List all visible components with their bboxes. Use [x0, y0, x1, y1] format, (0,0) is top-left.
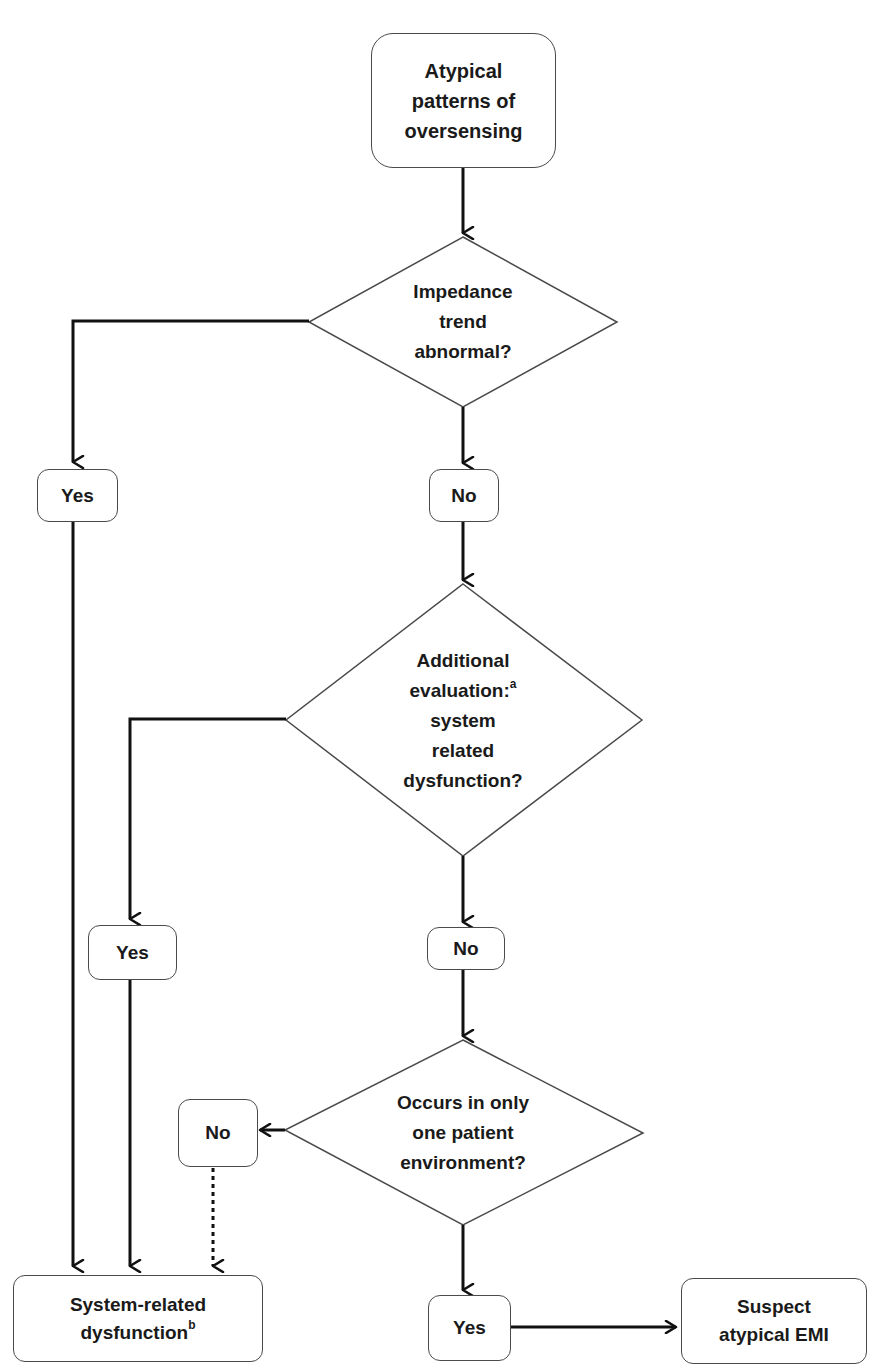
- decision3-line-1: Occurs in only: [397, 1088, 529, 1118]
- decision2-line-4: related: [432, 736, 494, 766]
- answer-label: No: [453, 935, 478, 963]
- decision-environment-label: Occurs in only one patient environment?: [368, 1087, 558, 1179]
- decision2-line-1: Additional: [417, 646, 510, 676]
- answer-label: Yes: [116, 939, 149, 967]
- decision3-line-3: environment?: [400, 1148, 526, 1178]
- outcome-emi-line-1: Suspect: [737, 1293, 811, 1321]
- answer-label: Yes: [61, 482, 94, 510]
- start-line-3: oversensing: [405, 116, 523, 146]
- footnote-b: b: [188, 1318, 195, 1332]
- decision-additional-evaluation-label: Additional evaluation:a system related d…: [378, 643, 548, 799]
- answer-impedance-no: No: [429, 469, 499, 522]
- answer-additional-yes: Yes: [88, 925, 177, 980]
- decision1-line-3: abnormal?: [414, 337, 511, 367]
- start-node-atypical-oversensing: Atypical patterns of oversensing: [371, 33, 556, 168]
- decision-impedance-label: Impedance trend abnormal?: [383, 276, 543, 368]
- outcome-suspect-atypical-emi: Suspect atypical EMI: [681, 1278, 867, 1364]
- decision2-line-3: system: [430, 706, 496, 736]
- decision2-line-2-text: evaluation:: [410, 680, 510, 701]
- outcome-system-line-2-text: dysfunction: [80, 1322, 188, 1343]
- outcome-system-line-2: dysfunctionb: [80, 1319, 195, 1347]
- decision2-line-5: dysfunction?: [403, 766, 522, 796]
- answer-impedance-yes: Yes: [37, 469, 118, 522]
- answer-label: No: [205, 1119, 230, 1147]
- edge-additional-yes: [130, 719, 286, 919]
- footnote-a: a: [510, 677, 517, 691]
- decision2-line-2: evaluation:a: [410, 676, 517, 706]
- decision1-line-2: trend: [439, 307, 487, 337]
- decision1-line-1: Impedance: [413, 277, 512, 307]
- answer-label: Yes: [453, 1314, 486, 1342]
- answer-environment-yes: Yes: [428, 1295, 511, 1361]
- start-line-1: Atypical: [425, 56, 503, 86]
- edge-impedance-yes: [73, 321, 309, 462]
- decision3-line-2: one patient: [412, 1118, 513, 1148]
- start-line-2: patterns of: [412, 86, 515, 116]
- answer-label: No: [451, 482, 476, 510]
- answer-environment-no: No: [178, 1099, 258, 1167]
- outcome-system-line-1: System-related: [70, 1291, 206, 1319]
- outcome-system-related-dysfunction: System-related dysfunctionb: [13, 1275, 263, 1362]
- flowchart-canvas: Atypical patterns of oversensing Impedan…: [0, 0, 888, 1372]
- answer-additional-no: No: [427, 927, 505, 970]
- outcome-emi-line-2: atypical EMI: [719, 1321, 829, 1349]
